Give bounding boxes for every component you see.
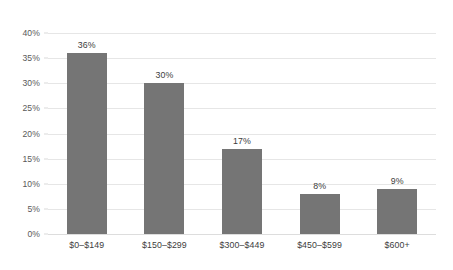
x-axis-tick-label: $0–$149 [48,240,126,250]
bar-slot: 8% [281,33,359,234]
bar-value-label: 17% [233,136,251,146]
bar-slot: 17% [203,33,281,234]
y-axis-tick-label: 20% [0,129,40,139]
gridline [48,234,436,235]
bar-chart: 0%5%10%15%20%25%30%35%40% 36%30%17%8%9% … [0,0,453,270]
bar-value-label: 8% [313,181,326,191]
bar[interactable] [377,189,417,234]
bar-value-label: 9% [391,176,404,186]
bar-value-label: 36% [78,40,96,50]
bar-slot: 9% [358,33,436,234]
y-axis-tick-label: 35% [0,53,40,63]
y-axis-tick-label: 40% [0,28,40,38]
bar[interactable] [144,83,184,234]
x-axis-tick-label: $450–$599 [281,240,359,250]
bar-slot: 30% [126,33,204,234]
bar-value-label: 30% [155,70,173,80]
y-axis-tick-label: 15% [0,154,40,164]
x-axis-tick-label: $300–$449 [203,240,281,250]
bar[interactable] [222,149,262,234]
bars-group: 36%30%17%8%9% [48,33,436,234]
bar-slot: 36% [48,33,126,234]
x-axis: $0–$149$150–$299$300–$449$450–$599$600+ [48,240,436,258]
y-axis-tick-label: 5% [0,204,40,214]
x-axis-tick-label: $600+ [358,240,436,250]
y-axis-tick-label: 10% [0,179,40,189]
x-axis-tick-label: $150–$299 [126,240,204,250]
y-axis: 0%5%10%15%20%25%30%35%40% [0,33,40,234]
bar[interactable] [67,53,107,234]
y-axis-tick-label: 0% [0,229,40,239]
y-axis-tick-label: 30% [0,78,40,88]
y-axis-tick-label: 25% [0,103,40,113]
bar[interactable] [300,194,340,234]
